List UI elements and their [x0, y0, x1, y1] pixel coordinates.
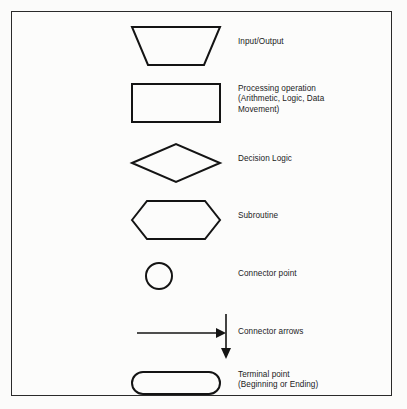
- symbol-rectangle-process: [130, 81, 230, 125]
- legend-row: Processing operation(Arithmetic, Logic, …: [12, 81, 391, 127]
- symbol-connector-arrows: [20, 306, 235, 360]
- flowchart-legend-page: Input/Output Processing operation(Arithm…: [0, 0, 407, 409]
- symbol-stadium-terminal-point: [130, 364, 230, 400]
- symbol-circle-connector-point: [130, 258, 230, 294]
- legend-row: Input/Output: [12, 24, 391, 72]
- legend-label-terminal-point: Terminal point(Beginning or Ending): [238, 370, 398, 391]
- symbol-trapezoid-input-output: [130, 24, 230, 68]
- legend-label-connector-arrows: Connector arrows: [238, 327, 398, 337]
- legend-row: Connector arrows: [12, 306, 391, 360]
- terminal-line-1: Terminal point: [238, 370, 290, 379]
- legend-label-connector-point: Connector point: [238, 269, 398, 279]
- legend-row: Subroutine: [12, 198, 391, 244]
- diagram-border-frame: Input/Output Processing operation(Arithm…: [11, 11, 392, 396]
- legend-row: Decision Logic: [12, 141, 391, 187]
- terminal-line-2: (Beginning or Ending): [238, 380, 318, 389]
- legend-label-decision-logic: Decision Logic: [238, 154, 398, 164]
- symbol-diamond-decision: [130, 141, 230, 185]
- process-line-1: Processing operation: [238, 84, 316, 93]
- legend-row: Connector point: [12, 258, 391, 298]
- legend-label-subroutine: Subroutine: [238, 211, 398, 221]
- symbol-hexagon-subroutine: [130, 198, 230, 242]
- legend-label-input-output: Input/Output: [238, 37, 398, 47]
- legend-row: Terminal point(Beginning or Ending): [12, 364, 391, 404]
- process-line-2: (Arithmetic, Logic, Data: [238, 94, 324, 103]
- legend-label-processing-operation: Processing operation(Arithmetic, Logic, …: [238, 84, 398, 115]
- process-line-3: Movement): [238, 105, 279, 114]
